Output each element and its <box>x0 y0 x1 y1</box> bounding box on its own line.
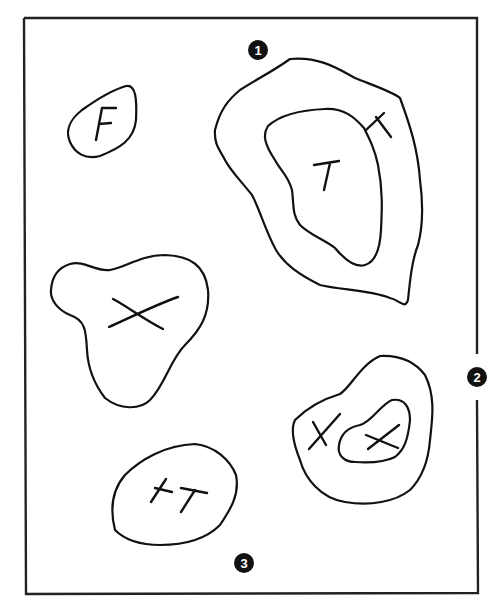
letter-f-mark <box>96 108 116 140</box>
region-diagram: 1 2 3 <box>0 0 503 616</box>
region-plus-t <box>112 444 236 545</box>
marker-1-label: 1 <box>254 43 261 58</box>
region-x-outer <box>293 356 433 504</box>
letter-x-inner-mark <box>366 425 399 449</box>
region-x-inner <box>339 400 410 463</box>
marker-2-label: 2 <box>473 370 480 385</box>
letter-t-bottom-mark <box>181 488 207 512</box>
letter-x-left-mark <box>309 414 340 449</box>
letter-x-mark <box>109 297 178 329</box>
region-t-inner <box>265 109 382 266</box>
plus-mark <box>151 479 172 502</box>
region-x <box>51 255 208 407</box>
letter-t-rotated-mark <box>366 113 391 137</box>
diagram-frame <box>24 18 478 594</box>
marker-3: 3 <box>234 553 254 573</box>
marker-2: 2 <box>467 367 487 387</box>
marker-1: 1 <box>248 40 268 60</box>
region-t-outer <box>215 59 422 305</box>
letter-t-mark <box>314 161 339 190</box>
region-f <box>68 86 136 157</box>
marker-3-label: 3 <box>240 556 247 571</box>
